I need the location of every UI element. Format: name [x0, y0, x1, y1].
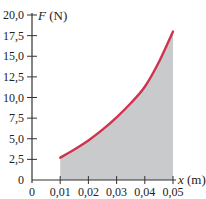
y-tick-label: 15,0 — [3, 49, 24, 63]
chart: 00,010,020,030,040,0502,55,07,510,012,51… — [0, 0, 206, 199]
x-tick-label: 0,02 — [78, 185, 99, 199]
y-tick-label: 17,5 — [3, 29, 24, 43]
y-tick-label: 0 — [18, 173, 24, 187]
area-fill — [60, 32, 173, 181]
x-tick-label: 0,03 — [106, 185, 127, 199]
x-tick-label: 0 — [29, 185, 35, 199]
x-tick-label: 0,05 — [163, 185, 184, 199]
y-tick-label: 10,0 — [3, 91, 24, 105]
y-axis-label: F (N) — [37, 8, 67, 23]
y-tick-label: 2,5 — [9, 152, 24, 166]
x-tick-label: 0,04 — [134, 185, 155, 199]
x-axis-label: x (m) — [177, 172, 206, 187]
y-tick-label: 7,5 — [9, 111, 24, 125]
y-tick-label: 12,5 — [3, 70, 24, 84]
y-tick-label: 5,0 — [9, 132, 24, 146]
x-tick-label: 0,01 — [50, 185, 71, 199]
y-tick-label: 20,0 — [3, 8, 24, 22]
